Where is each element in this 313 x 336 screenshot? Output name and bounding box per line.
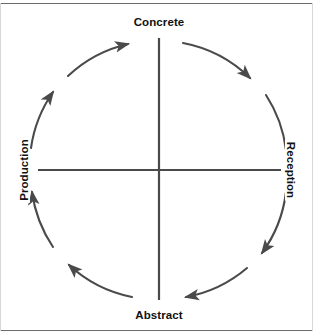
node-label-reception: Reception [285, 140, 297, 201]
cycle-diagram-figure: Concrete Reception Abstract Production [0, 0, 313, 336]
node-label-abstract: Abstract [133, 309, 184, 321]
arc-concrete-to-reception-head [183, 43, 250, 78]
arc-reception-to-abstract-tail [186, 268, 247, 297]
node-label-production: Production [18, 137, 30, 203]
node-label-concrete: Concrete [132, 16, 187, 28]
arc-concrete-to-reception-tail [266, 95, 286, 150]
arc-abstract-to-production-tail [32, 192, 53, 247]
arc-reception-to-abstract-head [262, 192, 286, 253]
arc-production-to-concrete-head [31, 92, 53, 148]
arc-abstract-to-production-head [69, 265, 132, 297]
cycle-diagram-canvas [0, 0, 313, 336]
arc-production-to-concrete-tail [68, 44, 128, 76]
